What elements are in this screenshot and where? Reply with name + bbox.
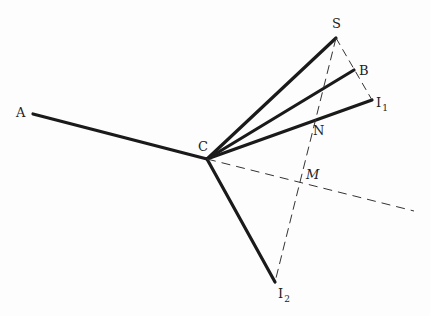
label-I1: I1	[376, 96, 388, 109]
dashed-S-I2	[275, 38, 336, 282]
label-I2-main: I	[278, 286, 283, 301]
label-I2-sub: 2	[284, 294, 290, 304]
segment-C-I2	[207, 159, 275, 282]
label-C: C	[198, 140, 208, 153]
label-N: N	[313, 124, 324, 137]
label-A: A	[16, 106, 25, 119]
segment-C-S	[207, 38, 336, 159]
geometry-diagram: A C S B I1 N M I2	[0, 0, 430, 316]
segment-A-C	[33, 114, 207, 159]
label-I2: I2	[278, 287, 290, 300]
label-S: S	[332, 17, 341, 30]
label-B: B	[359, 64, 369, 77]
diagram-lines	[0, 0, 430, 316]
label-I1-sub: 1	[382, 103, 388, 113]
label-I1-main: I	[376, 95, 381, 110]
label-M: M	[306, 168, 319, 181]
